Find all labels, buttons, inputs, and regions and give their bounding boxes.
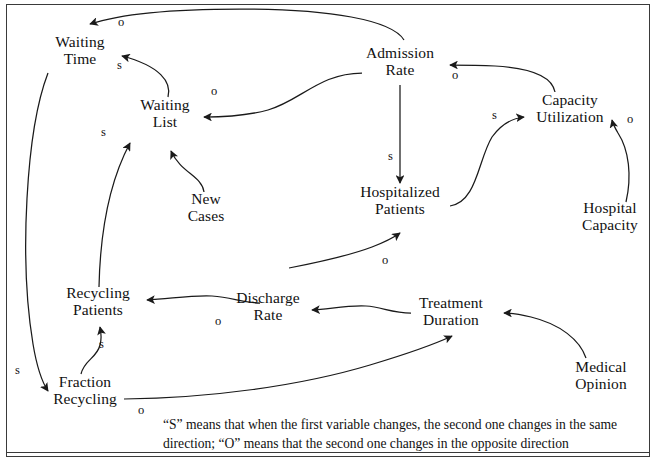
node-waiting-list[interactable]: Waiting List xyxy=(133,96,197,130)
polarity-hospitalized-patients-to-capacity-utilization: s xyxy=(492,108,497,123)
edge-medical-opinion-to-treatment-duration xyxy=(504,313,586,358)
polarity-fraction-recycling-to-recycling-patients: s xyxy=(99,337,104,352)
edge-waiting-list-to-waiting-time xyxy=(122,56,169,97)
edge-waiting-time-to-fraction-recycling xyxy=(26,73,48,391)
polarity-recycling-patients-to-waiting-list: s xyxy=(101,125,106,140)
edge-capacity-utilization-to-admission-rate xyxy=(450,65,555,92)
polarity-hospital-capacity-to-capacity-utilization: o xyxy=(627,112,633,127)
polarity-discharge-rate-to-recycling-patients: o xyxy=(215,314,221,329)
node-discharge-rate[interactable]: Discharge Rate xyxy=(230,289,306,323)
polarity-admission-rate-to-hospitalized-patients: s xyxy=(388,149,393,164)
edge-fraction-recycling-to-treatment-duration xyxy=(124,336,452,399)
edge-hospitalized-patients-to-capacity-utilization xyxy=(450,117,524,206)
node-waiting-time[interactable]: Waiting Time xyxy=(48,33,112,67)
polarity-waiting-time-to-fraction-recycling: s xyxy=(15,363,20,378)
edge-hospital-capacity-to-capacity-utilization xyxy=(612,120,629,202)
polarity-admission-rate-to-waiting-time: o xyxy=(118,15,124,30)
node-treatment-duration[interactable]: Treatment Duration xyxy=(409,294,493,328)
edge-treatment-duration-to-discharge-rate xyxy=(312,306,411,313)
node-hospital-capacity[interactable]: Hospital Capacity xyxy=(573,199,647,233)
polarity-discharge-rate-to-hospitalized-patients: o xyxy=(382,253,388,268)
edge-new-cases-to-waiting-list xyxy=(171,151,204,192)
causal-loop-diagram-page: Waiting Time Waiting List New Cases Admi… xyxy=(0,0,656,466)
node-new-cases[interactable]: New Cases xyxy=(176,190,236,224)
node-admission-rate[interactable]: Admission Rate xyxy=(360,44,440,78)
edge-admission-rate-to-waiting-list xyxy=(204,73,362,117)
node-medical-opinion[interactable]: Medical Opinion xyxy=(565,358,637,392)
diagram-caption: “S” means that when the first variable c… xyxy=(163,416,643,453)
polarity-admission-rate-to-waiting-list: o xyxy=(211,84,217,99)
polarity-fraction-recycling-to-treatment-duration: o xyxy=(138,403,144,418)
node-recycling-patients[interactable]: Recycling Patients xyxy=(59,284,137,318)
node-hospitalized-patients[interactable]: Hospitalized Patients xyxy=(354,183,446,217)
edge-recycling-patients-to-waiting-list xyxy=(99,143,130,287)
polarity-capacity-utilization-to-admission-rate: o xyxy=(452,68,458,83)
edge-admission-rate-to-waiting-time xyxy=(90,9,404,40)
node-capacity-utilization[interactable]: Capacity Utilization xyxy=(527,91,613,125)
polarity-waiting-list-to-waiting-time: s xyxy=(117,58,122,73)
node-fraction-recycling[interactable]: Fraction Recycling xyxy=(46,373,124,407)
